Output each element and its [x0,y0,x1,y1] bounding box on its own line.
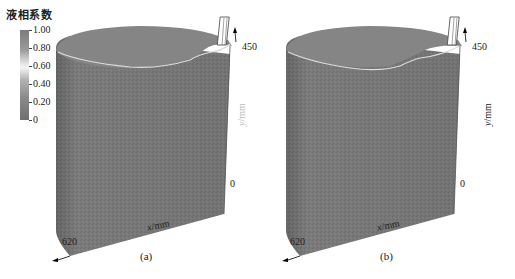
panel-b-y-label: y/mm [482,103,493,126]
panel-a-y-label: y/mm [236,103,247,126]
panel-a-caption: (a) [140,250,152,262]
panel-b-y-max: 450 [472,41,487,52]
panel-a-x-max: 620 [62,236,77,247]
panel-a-y-max: 450 [242,41,257,52]
panel-b-y-min: 0 [460,178,465,189]
panel-b-x-max: 620 [290,236,305,247]
panel-b-caption: (b) [380,250,393,262]
panel-a-body [52,17,237,262]
panel-b-body [282,17,467,262]
panel-a-y-min: 0 [230,178,235,189]
casting-renderings [0,0,515,279]
